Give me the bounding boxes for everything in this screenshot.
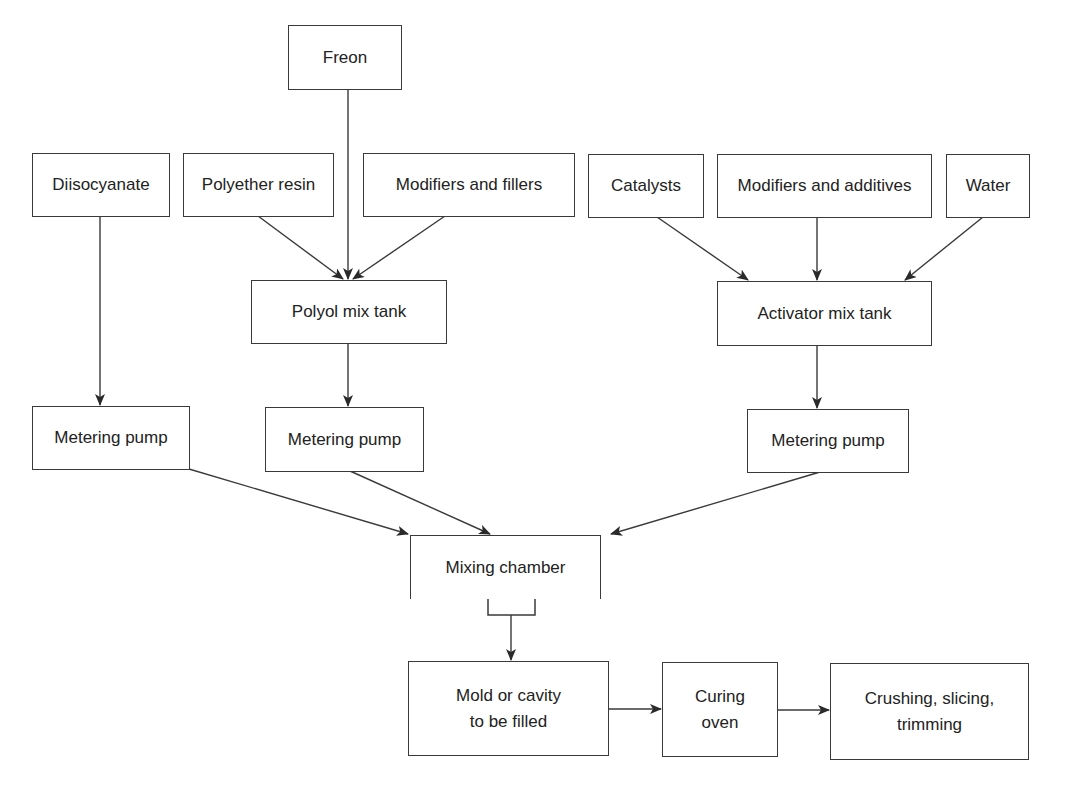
node-label: Metering pump (54, 425, 167, 451)
arrow-polyether-to-polyol-tank (258, 216, 343, 279)
node-modifiers-and-fillers: Modifiers and fillers (363, 153, 575, 217)
node-activator-mix-tank: Activator mix tank (717, 281, 932, 346)
node-polyol-mix-tank: Polyol mix tank (251, 280, 447, 344)
node-label: Curing oven (695, 684, 745, 736)
arrow-catalysts-to-activator-tank (657, 217, 748, 280)
polyurethane-foam-process-diagram: Freon Diisocyanate Polyether resin Modif… (0, 0, 1072, 792)
node-modifiers-and-additives: Modifiers and additives (717, 154, 932, 218)
node-label: Crushing, slicing, trimming (865, 686, 994, 738)
arrow-water-to-activator-tank (905, 217, 983, 280)
node-polyether-resin: Polyether resin (183, 153, 334, 217)
node-label: Freon (323, 45, 367, 71)
node-mixing-chamber: Mixing chamber (410, 535, 601, 599)
node-label: Mixing chamber (446, 555, 566, 581)
node-label: Metering pump (771, 428, 884, 454)
node-label: Diisocyanate (52, 172, 149, 198)
arrow-pump1-to-mixing-chamber (189, 469, 408, 534)
node-label: Activator mix tank (757, 301, 891, 327)
node-metering-pump-3: Metering pump (747, 409, 909, 473)
node-metering-pump-2: Metering pump (265, 407, 424, 472)
node-crushing-slicing-trimming: Crushing, slicing, trimming (830, 663, 1029, 760)
node-diisocyanate: Diisocyanate (32, 153, 170, 217)
arrow-modfillers-to-polyol-tank (353, 216, 445, 279)
node-mold-or-cavity: Mold or cavity to be filled (408, 661, 609, 756)
node-label: Modifiers and additives (738, 173, 912, 199)
node-label: Polyol mix tank (292, 299, 406, 325)
node-label: Modifiers and fillers (396, 172, 542, 198)
node-freon: Freon (288, 25, 402, 90)
node-label: Water (966, 173, 1011, 199)
node-metering-pump-1: Metering pump (32, 406, 190, 470)
arrow-pump3-to-mixing-chamber (611, 472, 820, 534)
node-curing-oven: Curing oven (662, 662, 778, 757)
node-label: Catalysts (611, 173, 681, 199)
arrow-pump2-to-mixing-chamber (350, 471, 490, 534)
node-label: Metering pump (288, 427, 401, 453)
node-catalysts: Catalysts (588, 154, 704, 218)
node-label: Polyether resin (202, 172, 315, 198)
node-label: Mold or cavity to be filled (456, 683, 561, 735)
mixing-chamber-nozzle (410, 598, 600, 615)
node-water: Water (946, 154, 1030, 218)
